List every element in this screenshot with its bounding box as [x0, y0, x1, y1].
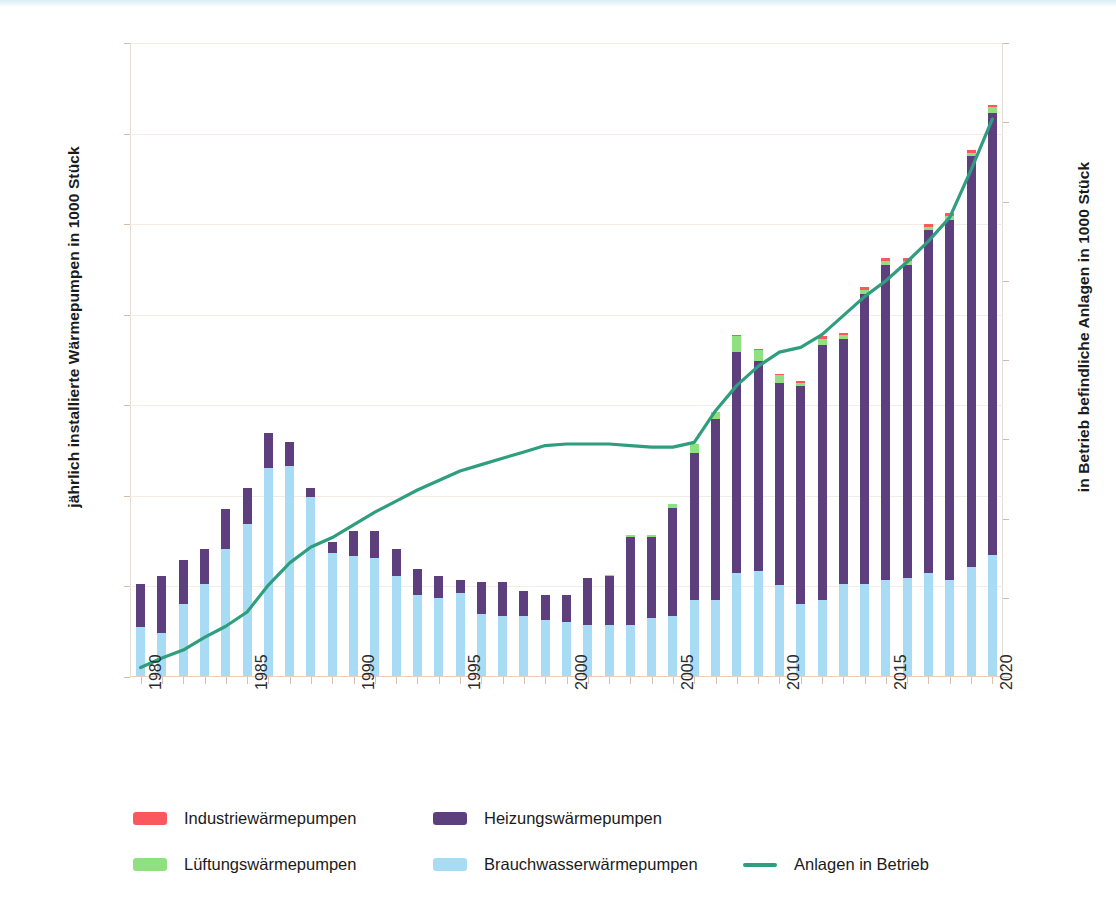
x-tick-mark: [609, 677, 610, 684]
legend-item[interactable]: Brauchwasserwärmepumpen: [433, 855, 698, 874]
x-tick-mark: [716, 677, 717, 684]
x-tick-mark: [843, 677, 844, 684]
x-tick-mark: [396, 677, 397, 684]
x-tick-label: 1995: [466, 654, 484, 690]
x-tick-mark: [737, 677, 738, 684]
legend-label: Industriewärmepumpen: [184, 809, 356, 828]
x-tick-mark: [758, 677, 759, 684]
x-tick-mark: [673, 677, 674, 684]
x-tick-label: 2010: [785, 654, 803, 690]
y-tick-mark-right: [1003, 122, 1009, 123]
y-tick-mark-left: [124, 677, 130, 678]
x-tick-mark: [354, 677, 355, 684]
x-tick-mark: [183, 677, 184, 684]
x-tick-mark: [652, 677, 653, 684]
x-tick-mark: [439, 677, 440, 684]
y-tick-mark-right: [1003, 360, 1009, 361]
x-tick-mark: [865, 677, 866, 684]
legend-item[interactable]: Anlagen in Betrieb: [743, 855, 929, 874]
x-tick-mark: [971, 677, 972, 684]
x-tick-mark: [503, 677, 504, 684]
x-tick-mark: [992, 677, 993, 684]
x-tick-label: 1980: [147, 654, 165, 690]
x-tick-mark: [779, 677, 780, 684]
legend-swatch-icon: [433, 812, 467, 825]
x-tick-mark: [886, 677, 887, 684]
legend-label: Anlagen in Betrieb: [794, 855, 929, 874]
y-tick-mark-right: [1003, 439, 1009, 440]
legend-item[interactable]: Industriewärmepumpen: [133, 809, 356, 828]
x-tick-label: 1990: [360, 654, 378, 690]
x-tick-mark: [311, 677, 312, 684]
x-tick-mark: [417, 677, 418, 684]
x-tick-mark: [290, 677, 291, 684]
x-tick-mark: [226, 677, 227, 684]
legend-line-icon: [743, 863, 777, 867]
chart-figure: jährlich installierte Wärmepumpen in 100…: [0, 0, 1116, 906]
x-tick-mark: [928, 677, 929, 684]
x-tick-label: 2005: [679, 654, 697, 690]
x-tick-mark: [950, 677, 951, 684]
x-tick-mark: [567, 677, 568, 684]
y-tick-mark-right: [1003, 202, 1009, 203]
legend-item[interactable]: Heizungswärmepumpen: [433, 809, 662, 828]
x-tick-mark: [630, 677, 631, 684]
x-tick-mark: [141, 677, 142, 684]
legend-swatch-icon: [133, 858, 167, 871]
legend-label: Brauchwasserwärmepumpen: [484, 855, 698, 874]
x-tick-mark: [247, 677, 248, 684]
y-tick-mark-right: [1003, 598, 1009, 599]
legend-item[interactable]: Lüftungswärmepumpen: [133, 855, 356, 874]
y-tick-mark-right: [1003, 43, 1009, 44]
x-tick-label: 2000: [573, 654, 591, 690]
plot-area: 05101520253035 050100150200250300350400: [130, 43, 1003, 677]
x-tick-mark: [545, 677, 546, 684]
y-tick-mark-right: [1003, 281, 1009, 282]
line-series-anlagen-in-betrieb: [130, 43, 1003, 677]
legend-label: Heizungswärmepumpen: [484, 809, 662, 828]
x-tick-label: 2015: [892, 654, 910, 690]
legend-swatch-icon: [433, 858, 467, 871]
y-axis-title-left: jährlich installierte Wärmepumpen in 100…: [65, 117, 83, 537]
y-axis-title-right: in Betrieb befindliche Anlagen in 1000 S…: [1075, 117, 1093, 537]
x-tick-mark: [460, 677, 461, 684]
legend-label: Lüftungswärmepumpen: [184, 855, 356, 874]
x-tick-label: 2020: [998, 654, 1016, 690]
chart-legend: IndustriewärmepumpenHeizungswärmepumpenL…: [133, 805, 993, 895]
legend-swatch-icon: [133, 812, 167, 825]
x-tick-label: 1985: [253, 654, 271, 690]
y-tick-mark-right: [1003, 519, 1009, 520]
x-tick-mark: [205, 677, 206, 684]
x-tick-mark: [524, 677, 525, 684]
x-tick-mark: [332, 677, 333, 684]
x-tick-mark: [822, 677, 823, 684]
